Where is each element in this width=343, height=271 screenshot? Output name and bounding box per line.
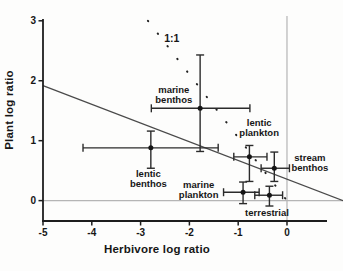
lentic-benthos-label: benthos [130, 178, 167, 189]
scatter-plot-canvas: marinebenthoslenticbenthoslenticplankton… [0, 0, 343, 271]
y-tick-label-0: 0 [30, 195, 36, 206]
y-axis-title: Plant log ratio [3, 70, 15, 150]
marine-plankton-label: plankton [179, 189, 219, 200]
marine-benthos-point [198, 106, 203, 111]
x-tick-label--3: -3 [136, 227, 145, 238]
figure-container: marinebenthoslenticbenthoslenticplankton… [0, 0, 343, 271]
lentic-benthos-point [148, 145, 153, 150]
y-tick-label-2: 2 [30, 75, 36, 86]
terrestrial-point [267, 193, 272, 198]
y-tick-label-1: 1 [30, 135, 36, 146]
x-tick-label--5: -5 [39, 227, 48, 238]
stream-benthos-point [272, 166, 277, 171]
x-tick-label--2: -2 [185, 227, 194, 238]
x-tick-label--4: -4 [87, 227, 96, 238]
lentic-plankton-point [247, 154, 252, 159]
stream-benthos-label: benthos [291, 162, 328, 173]
x-tick-label-0: 0 [284, 227, 290, 238]
x-tick-label--1: -1 [234, 227, 243, 238]
lentic-plankton-label: plankton [239, 127, 279, 138]
marine-benthos-label: benthos [155, 94, 192, 105]
terrestrial-label: terrestrial [245, 207, 289, 218]
one-to-one-label: 1:1 [164, 32, 179, 44]
y-tick-label-3: 3 [30, 15, 36, 26]
one-to-one-dotted-line [148, 21, 287, 201]
marine-plankton-point [241, 190, 246, 195]
x-axis-title: Herbivore log ratio [104, 243, 210, 255]
